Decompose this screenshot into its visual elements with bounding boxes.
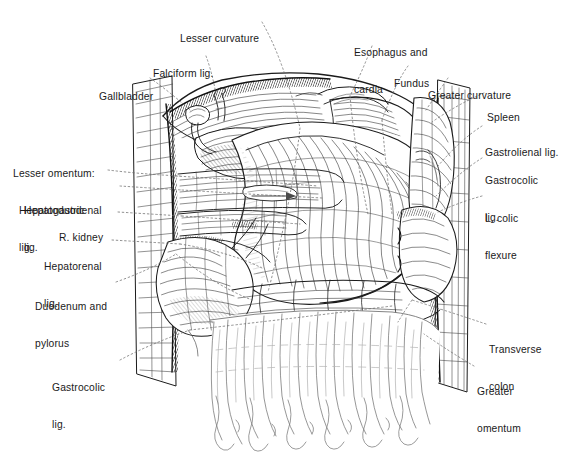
label-fundus: Fundus (394, 53, 429, 115)
anatomical-figure: Lesser curvature Esophagus and cardia Fa… (0, 0, 567, 471)
label-gallbladder: Gallbladder (99, 66, 153, 128)
label-gastrocolic-lig-left: Gastrocolic lig. (52, 357, 105, 456)
greater-omentum (208, 310, 440, 451)
label-l-colic-flexure: L. colic flexure (485, 188, 518, 287)
label-falciform-lig: Falciform lig. (153, 43, 213, 105)
label-greater-omentum: Greater omentum (477, 361, 521, 460)
